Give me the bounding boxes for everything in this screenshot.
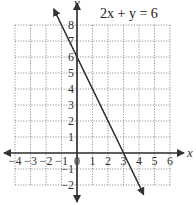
chart-title: 2x + y = 6 — [100, 6, 158, 21]
x-tick-label: 4 — [136, 154, 142, 168]
axes — [4, 3, 184, 202]
y-axis-label: y — [72, 0, 80, 10]
x-tick-label: −4 — [9, 154, 22, 168]
y-tick-label: 1 — [68, 130, 74, 144]
x-tick-label: 0 — [74, 154, 80, 168]
y-tick-label: 5 — [68, 66, 74, 80]
x-tick-label: 2 — [105, 154, 111, 168]
y-tick-label: 3 — [68, 98, 74, 112]
y-tick-label: 4 — [68, 82, 74, 96]
y-tick-label: 2 — [68, 114, 74, 128]
y-tick-label: −2 — [61, 178, 74, 192]
x-axis-label: x — [186, 145, 193, 160]
y-tick-label: 8 — [68, 18, 74, 32]
x-tick-label: −2 — [40, 154, 53, 168]
y-tick-label: −1 — [61, 162, 74, 176]
y-tick-label: 6 — [68, 50, 74, 64]
x-tick-label: 1 — [90, 154, 96, 168]
coordinate-plane: −4−3−2−10123456−2−112345678 x y 2x + y =… — [0, 0, 196, 205]
x-tick-label: −3 — [24, 154, 37, 168]
x-tick-label: 6 — [167, 154, 173, 168]
x-tick-label: 5 — [152, 154, 158, 168]
